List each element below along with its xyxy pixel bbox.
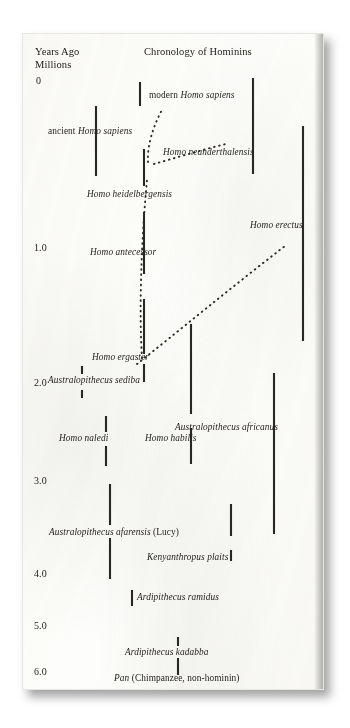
link-heidelbergensis-to-modern-sapiens bbox=[148, 108, 163, 162]
label-homo-habilis: Homo habilis bbox=[145, 433, 197, 443]
label-modern-species: Homo sapiens bbox=[180, 90, 234, 100]
label-homo-ergaster: Homo ergaster bbox=[92, 352, 149, 362]
tick-label-0: 0 bbox=[36, 75, 41, 86]
label-australopithecus-africanus: Australopithecus africanus bbox=[175, 422, 278, 432]
label-homo-neanderthalensis: Homo neanderthalensis bbox=[163, 147, 254, 157]
axis-title-years-ago: Years Ago bbox=[35, 46, 79, 58]
label-ancient-prefix: ancient bbox=[48, 126, 78, 136]
axis-title-millions: Millions bbox=[35, 59, 71, 71]
label-homo-erectus: Homo erectus bbox=[250, 220, 303, 230]
label-homo-antecessor: Homo antecessor bbox=[90, 247, 156, 257]
tick-label-5: 5.0 bbox=[34, 620, 47, 631]
label-ardipithecus-ramidus: Ardipithecus ramidus bbox=[137, 592, 219, 602]
link-ergaster-to-erectus bbox=[137, 246, 285, 364]
chart-title: Chronology of Hominins bbox=[144, 46, 252, 57]
tick-label-1: 1.0 bbox=[34, 242, 47, 253]
label-ancient-homo-sapiens: ancient Homo sapiens bbox=[48, 126, 132, 136]
label-pan-genus: Pan bbox=[114, 673, 129, 683]
label-australopithecus-sediba: Australopithecus sediba bbox=[48, 375, 140, 385]
label-kenyanthropus-platyops: Kenyanthropus plaits bbox=[147, 552, 228, 562]
label-homo-heidelbergensis: Homo heidelbergensis bbox=[87, 189, 172, 199]
label-modern-prefix: modern bbox=[149, 90, 180, 100]
label-ardipithecus-kadabba: Ardipithecus kadabba bbox=[125, 647, 209, 657]
tick-label-2: 2.0 bbox=[34, 377, 47, 388]
tick-label-6: 6.0 bbox=[34, 666, 47, 677]
figure-scene: Years Ago Millions Chronology of Hominin… bbox=[0, 0, 350, 728]
label-pan: Pan (Chimpanzee, non-hominin) bbox=[114, 673, 240, 683]
scanned-page-sheet: Years Ago Millions Chronology of Hominin… bbox=[22, 33, 324, 690]
label-pan-suffix: (Chimpanzee, non-hominin) bbox=[129, 673, 239, 683]
label-ancient-species: Homo sapiens bbox=[78, 126, 132, 136]
label-afarensis-suffix: (Lucy) bbox=[151, 527, 179, 537]
label-afarensis-species: Australopithecus afarensis bbox=[49, 527, 151, 537]
tick-label-3: 3.0 bbox=[34, 475, 47, 486]
label-modern-homo-sapiens: modern Homo sapiens bbox=[149, 90, 235, 100]
label-homo-naledi: Homo naledi bbox=[59, 433, 108, 443]
tick-label-4: 4.0 bbox=[34, 568, 47, 579]
label-australopithecus-afarensis: Australopithecus afarensis (Lucy) bbox=[49, 527, 179, 537]
